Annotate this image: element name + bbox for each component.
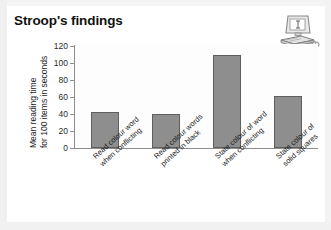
y-axis-tick-label: 0 <box>63 143 68 153</box>
y-axis-tick <box>70 97 74 98</box>
y-axis-tick-label: 60 <box>59 92 68 102</box>
y-axis-tick-label: 20 <box>59 126 68 136</box>
y-axis-line <box>74 45 75 149</box>
y-axis-tick <box>70 131 74 132</box>
y-axis-tick <box>70 46 74 47</box>
y-axis-tick-label: 40 <box>59 109 68 119</box>
y-axis-tick <box>70 80 74 81</box>
y-axis-tick-label: 120 <box>54 41 68 51</box>
y-axis-tick-label: 100 <box>54 58 68 68</box>
y-axis-title-line2: for 100 items in seconds <box>39 56 49 148</box>
y-axis-tick <box>70 148 74 149</box>
y-axis-title-line1: Mean reading time <box>28 78 38 148</box>
slide: Stroop's findings 0204060 <box>0 0 331 230</box>
y-axis-tick <box>70 114 74 115</box>
y-axis-tick-label: 80 <box>59 75 68 85</box>
y-axis-tick <box>70 63 74 64</box>
bar-chart: 020406080100120 Read colour wordwhen con… <box>0 0 331 230</box>
